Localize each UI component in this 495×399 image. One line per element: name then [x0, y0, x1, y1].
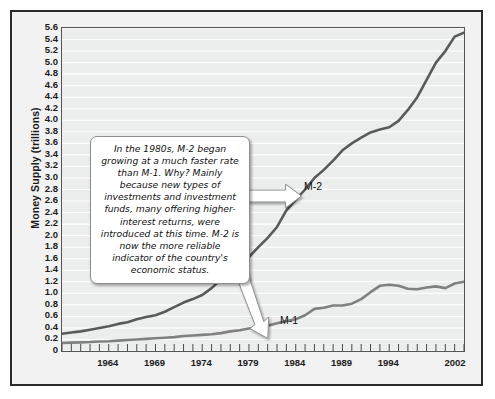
- y-tick-label: 1.8: [28, 241, 58, 251]
- y-tick-label: 0.6: [28, 310, 58, 320]
- y-tick-label: 0.8: [28, 299, 58, 309]
- y-tick-label: 3.6: [28, 137, 58, 147]
- y-tick-label: 4.6: [28, 80, 58, 90]
- callout-box: In the 1980s, M-2 began growing at a muc…: [90, 136, 250, 284]
- y-tick-label: 5.0: [28, 57, 58, 67]
- series-label-m1: M-1: [280, 314, 298, 326]
- callout-text: In the 1980s, M-2 began growing at a muc…: [99, 143, 241, 276]
- x-tick-label: 2002: [444, 357, 465, 368]
- x-tick-label: 1974: [191, 357, 212, 368]
- y-tick-label: 0.2: [28, 333, 58, 343]
- y-tick-label: 4.0: [28, 114, 58, 124]
- y-tick-label: 4.2: [28, 103, 58, 113]
- x-tick-label: 1964: [97, 357, 118, 368]
- y-tick-label: 2.6: [28, 195, 58, 205]
- series-line-m-1: [62, 282, 464, 343]
- x-tick-label: 1989: [331, 357, 352, 368]
- y-axis-tick-labels: 5.65.45.25.04.84.64.44.24.03.83.63.43.23…: [26, 12, 58, 384]
- y-tick-label: 5.4: [28, 34, 58, 44]
- x-tick-label: 1984: [284, 357, 305, 368]
- x-tick-label: 1979: [237, 357, 258, 368]
- y-tick-label: 0: [28, 345, 58, 355]
- y-tick-label: 1.0: [28, 287, 58, 297]
- y-tick-label: 5.2: [28, 45, 58, 55]
- y-tick-label: 5.6: [28, 22, 58, 32]
- y-tick-label: 2.4: [28, 207, 58, 217]
- y-tick-label: 2.0: [28, 230, 58, 240]
- y-tick-label: 3.8: [28, 126, 58, 136]
- y-tick-label: 1.4: [28, 264, 58, 274]
- x-minor-ticks: [62, 344, 464, 351]
- x-tick-label: 1994: [378, 357, 399, 368]
- y-tick-label: 1.2: [28, 276, 58, 286]
- y-tick-label: 4.8: [28, 68, 58, 78]
- y-tick-label: 2.2: [28, 218, 58, 228]
- chart-figure: Money Supply (trillions) 5.65.45.25.04.8…: [10, 10, 483, 386]
- x-tick-label: 1969: [144, 357, 165, 368]
- y-tick-label: 2.8: [28, 184, 58, 194]
- y-tick-label: 3.4: [28, 149, 58, 159]
- y-tick-label: 3.2: [28, 160, 58, 170]
- y-tick-label: 0.4: [28, 322, 58, 332]
- y-tick-label: 4.4: [28, 91, 58, 101]
- y-tick-label: 3.0: [28, 172, 58, 182]
- x-axis-tick-labels: 19641969197419791984198919942002: [12, 357, 481, 373]
- y-tick-label: 1.6: [28, 253, 58, 263]
- series-label-m2: M-2: [304, 180, 322, 192]
